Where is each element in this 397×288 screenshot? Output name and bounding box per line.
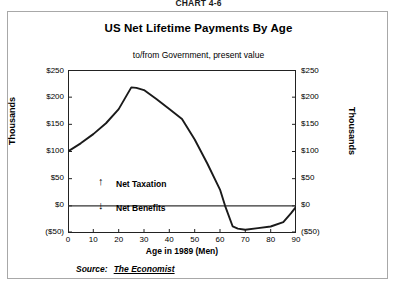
x-tick-50: 50 (185, 235, 205, 244)
y-tick-left-150: $150 (46, 119, 64, 128)
x-tick-10: 10 (83, 235, 103, 244)
net-taxation-up-arrow-icon: ↑ (98, 176, 104, 187)
y-tick-right-150: $150 (301, 119, 319, 128)
x-tick-20: 20 (109, 235, 129, 244)
x-tick-70: 70 (235, 235, 255, 244)
x-tick-60: 60 (210, 235, 230, 244)
net-benefits-down-arrow-icon: ↓ (98, 200, 104, 211)
y-tick-right-200: $200 (301, 92, 319, 101)
y-tick-right-100: $100 (301, 146, 319, 155)
x-tick-30: 30 (134, 235, 154, 244)
y-axis-right-title: Thousands (347, 107, 357, 155)
y-tick-right-50: $50 (301, 173, 314, 182)
y-tick-left-200: $200 (46, 92, 64, 101)
chart-number-caption: Chart 4-6 (0, 0, 397, 7)
net-benefits-label: Net Benefits (116, 203, 166, 213)
y-axis-right-ticklabels: $250 $200 $150 $100 $50 $0 ($50) (301, 70, 341, 233)
net-taxation-label: Net Taxation (116, 179, 166, 189)
plot-area: ↑ Net Taxation ↓ Net Benefits (68, 70, 296, 233)
chart-title: US Net Lifetime Payments By Age (0, 22, 397, 34)
source-note: Source:The Economist (76, 264, 175, 274)
y-tick-left-0: $0 (55, 200, 64, 209)
x-tick-80: 80 (261, 235, 281, 244)
x-tick-0: 0 (58, 235, 78, 244)
chart-subtitle: to/from Government, present value (0, 50, 397, 60)
x-tick-40: 40 (159, 235, 179, 244)
x-tick-90: 90 (286, 235, 306, 244)
y-tick-right-0: $0 (301, 200, 310, 209)
y-tick-left-50: $50 (51, 173, 64, 182)
y-axis-left-ticklabels: $250 $200 $150 $100 $50 $0 ($50) (28, 70, 64, 233)
y-tick-right-250: $250 (301, 66, 319, 75)
y-tick-left-100: $100 (46, 146, 64, 155)
source-prefix: Source: (76, 264, 108, 274)
x-axis-tickmarks (68, 229, 296, 233)
y-axis-left-title: Thousands (7, 97, 17, 145)
source-publication-name: The Economist (114, 264, 175, 274)
y-tick-left-250: $250 (46, 66, 64, 75)
chart-figure: Chart 4-6 US Net Lifetime Payments By Ag… (0, 0, 397, 288)
x-axis-title: Age in 1989 (Men) (68, 246, 296, 256)
